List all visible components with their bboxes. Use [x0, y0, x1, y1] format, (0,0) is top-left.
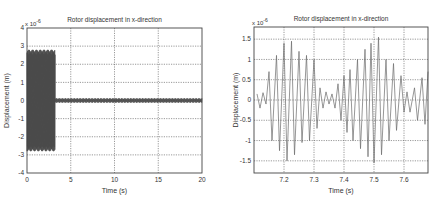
x-tick-label: 20	[198, 176, 206, 183]
y-tick-label: 4	[20, 24, 24, 31]
y-tick-label: 1	[20, 79, 24, 86]
x-tick-label: 15	[155, 176, 163, 183]
x-tick-label: 0	[25, 176, 29, 183]
y-tick-label: -1	[18, 115, 24, 122]
y-multiplier: x 10-6	[25, 18, 41, 27]
y-tick-label: 0.5	[242, 76, 251, 83]
y-tick-label: -1.5	[240, 157, 252, 164]
y-tick-label: 1.5	[242, 35, 251, 42]
y-tick-label: 0	[247, 96, 251, 103]
y-multiplier: x 10-6	[252, 17, 268, 26]
charts-canvas: 0510152043210-1-2-3-4Rotor displacement …	[0, 0, 434, 201]
chart-title: Rotor displacement in x-direction	[67, 16, 162, 24]
x-tick-label: 7.4	[339, 176, 348, 183]
right-chart: 7.27.37.47.57.61.510.50-0.5-1-1.5Rotor d…	[232, 15, 428, 195]
x-tick-label: 7.3	[309, 176, 318, 183]
x-tick-label: 7.2	[279, 176, 288, 183]
y-tick-label: 1	[247, 56, 251, 63]
y-tick-label: -3	[18, 151, 24, 158]
x-axis-label: Time (s)	[102, 187, 127, 195]
x-axis-label: Time (s)	[328, 187, 353, 195]
x-tick-label: 5	[69, 176, 73, 183]
x-tick-label: 10	[111, 176, 119, 183]
y-axis-label: Displacement (m)	[3, 73, 11, 128]
chart-title: Rotor displacement in x-direction	[294, 15, 389, 23]
y-axis-label: Displacement (m)	[232, 73, 240, 128]
y-tick-label: -1	[245, 137, 251, 144]
left-chart: 0510152043210-1-2-3-4Rotor displacement …	[3, 16, 206, 195]
y-tick-label: -2	[18, 133, 24, 140]
y-tick-label: -4	[18, 169, 24, 176]
y-tick-label: 2	[20, 60, 24, 67]
x-tick-label: 7.6	[399, 176, 408, 183]
x-tick-label: 7.5	[369, 176, 378, 183]
y-tick-label: -0.5	[240, 116, 252, 123]
y-tick-label: 0	[20, 97, 24, 104]
y-tick-label: 3	[20, 42, 24, 49]
